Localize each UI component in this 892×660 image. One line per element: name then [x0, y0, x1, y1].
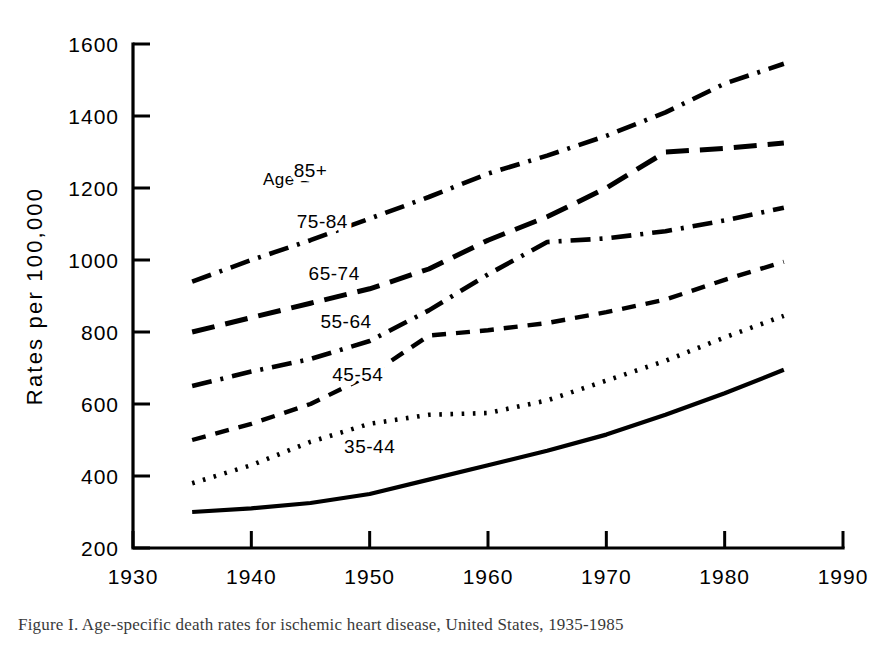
- y-tick-label: 1200: [68, 177, 119, 200]
- x-axis-ticks: [133, 531, 843, 548]
- series-lines: [192, 64, 784, 512]
- figure-container: Rates per 100,000 Year of Death 20040060…: [0, 0, 892, 660]
- axis-frame: [133, 44, 843, 548]
- x-tick-label: 1990: [818, 565, 869, 588]
- y-tick-label: 200: [81, 537, 119, 560]
- series-inline-labels: 85+85+75-8475-8465-7465-7455-6455-6445-5…: [294, 160, 396, 456]
- series-line-65-74: [192, 208, 784, 386]
- x-axis-tick-labels: 1930194019501960197019801990: [108, 565, 869, 588]
- y-tick-label: 400: [81, 465, 119, 488]
- y-tick-label: 600: [81, 393, 119, 416]
- series-line-45-54: [192, 316, 784, 483]
- x-tick-label: 1950: [344, 565, 395, 588]
- series-line-35-44: [192, 370, 784, 512]
- y-axis-tick-labels: 2004006008001000120014001600: [68, 33, 119, 560]
- series-label-55-64: 55-64: [320, 311, 371, 332]
- x-tick-label: 1960: [463, 565, 514, 588]
- series-label-35-44: 35-44: [344, 436, 395, 457]
- x-tick-label: 1940: [226, 565, 277, 588]
- figure-caption: Figure I. Age-specific death rates for i…: [0, 600, 892, 660]
- series-label-75-84: 75-84: [297, 211, 348, 232]
- y-tick-label: 1400: [68, 105, 119, 128]
- series-label-45-54: 45-54: [332, 364, 383, 385]
- y-tick-label: 800: [81, 321, 119, 344]
- x-tick-label: 1980: [699, 565, 750, 588]
- y-axis-ticks: [133, 44, 150, 548]
- series-line-55-64: [192, 262, 784, 440]
- line-chart: Rates per 100,000 Year of Death 20040060…: [0, 0, 892, 600]
- series-label-65-74: 65-74: [309, 263, 360, 284]
- series-label-85plus: 85+: [294, 160, 328, 181]
- caption-text: Figure I. Age-specific death rates for i…: [0, 600, 892, 635]
- y-tick-label: 1600: [68, 33, 119, 56]
- x-tick-label: 1930: [108, 565, 159, 588]
- y-tick-label: 1000: [68, 249, 119, 272]
- y-axis-title: Rates per 100,000: [22, 187, 47, 405]
- x-tick-label: 1970: [581, 565, 632, 588]
